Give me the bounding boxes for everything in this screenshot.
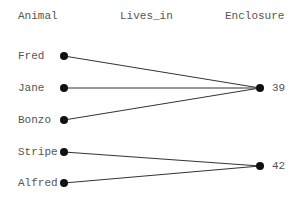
- node-fred: [60, 52, 68, 60]
- label-stripe: Stripe: [18, 146, 58, 158]
- edge-alfred-42: [64, 166, 260, 183]
- label-enclosure-42: 42: [272, 160, 285, 172]
- header-animal: Animal: [18, 10, 58, 22]
- edge-bonzo-39: [64, 88, 260, 120]
- edge-stripe-42: [64, 152, 260, 166]
- header-lives-in: Lives_in: [120, 10, 173, 22]
- node-bonzo: [60, 116, 68, 124]
- label-bonzo: Bonzo: [18, 114, 51, 126]
- node-stripe: [60, 148, 68, 156]
- node-alfred: [60, 179, 68, 187]
- label-enclosure-39: 39: [272, 82, 285, 94]
- label-fred: Fred: [18, 50, 44, 62]
- label-jane: Jane: [18, 82, 44, 94]
- node-42: [256, 162, 264, 170]
- node-39: [256, 84, 264, 92]
- node-jane: [60, 84, 68, 92]
- relation-diagram: [0, 0, 295, 199]
- header-enclosure: Enclosure: [225, 10, 284, 22]
- edge-fred-39: [64, 56, 260, 88]
- label-alfred: Alfred: [18, 177, 58, 189]
